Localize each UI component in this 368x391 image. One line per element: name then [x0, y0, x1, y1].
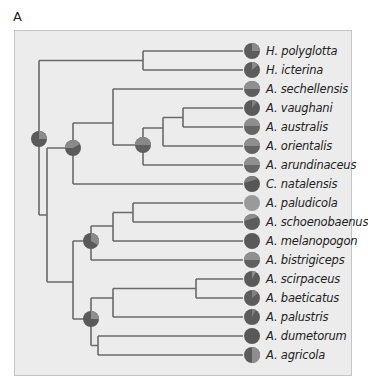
tip-label: A. paludicola — [266, 196, 338, 210]
tip-pie-h-icterina — [244, 62, 260, 78]
tip-pie-a-australis — [244, 118, 260, 135]
tip-pie-a-dumetorum — [244, 328, 260, 344]
tip-pie-c-natalensis — [244, 176, 260, 192]
tip-label: A. agricola — [266, 348, 325, 362]
node-pie — [135, 137, 151, 153]
node-pie — [83, 233, 99, 249]
tip-label: A. palustris — [266, 310, 328, 324]
tip-pie-a-sechellensis — [244, 81, 260, 97]
tip-pie-a-palustris — [244, 309, 260, 325]
tip-pie-a-orientalis — [244, 138, 260, 154]
tip-pie-a-melanopogon — [244, 233, 260, 249]
root-node-pie — [31, 131, 47, 147]
tip-label: A. sechellensis — [266, 82, 348, 96]
tip-label: H. polyglotta — [266, 44, 337, 58]
tip-pie-a-baeticatus — [244, 290, 260, 306]
tip-pie-a-bistrigiceps — [244, 252, 260, 268]
tip-label: A. dumetorum — [266, 329, 347, 343]
tip-pie-a-vaughani — [244, 100, 260, 116]
tip-label: A. orientalis — [266, 139, 332, 153]
tip-pie-a-agricola — [244, 347, 260, 363]
tree-branches — [39, 51, 243, 355]
tip-label: A. scirpaceus — [266, 272, 340, 286]
tip-label: A. australis — [266, 120, 328, 134]
tip-pies — [244, 43, 260, 363]
tip-label: H. icterina — [266, 63, 323, 77]
tip-label: A. bistrigiceps — [266, 253, 345, 267]
tip-label: A. schoenobaenus — [266, 215, 368, 229]
tip-label: A. melanopogon — [266, 234, 357, 248]
tip-pie-a-scirpaceus — [244, 271, 260, 287]
tip-label: A. vaughani — [266, 101, 332, 115]
tip-pie-a-arundinaceus — [244, 157, 260, 173]
node-pie — [83, 311, 99, 327]
tip-label: A. arundinaceus — [266, 158, 356, 172]
tip-pie-a-schoenobaenus — [244, 214, 260, 230]
tip-label: A. baeticatus — [266, 291, 339, 305]
tip-pie-a-paludicola — [244, 195, 260, 211]
tip-label: C. natalensis — [266, 177, 337, 191]
node-pie — [65, 140, 81, 156]
tip-pie-h-polyglotta — [244, 43, 260, 59]
